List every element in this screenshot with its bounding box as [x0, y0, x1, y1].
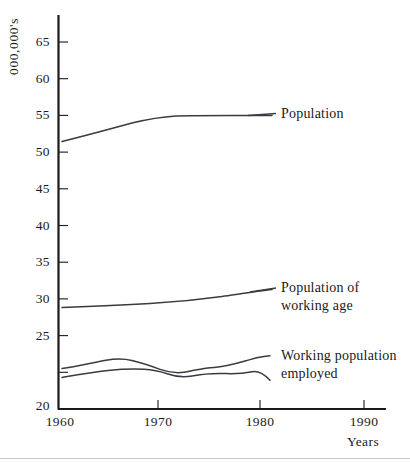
line-chart: 65 60 55 50 45 40 35 30 25 20 1960 1970 …	[0, 0, 410, 463]
series-annotation-working-population-line-1: Working population	[281, 347, 397, 365]
x-tick-label-1990: 1990	[350, 414, 379, 430]
y-tick-label-55: 55	[14, 107, 50, 123]
series-line-population-working-age	[62, 290, 272, 308]
x-axis-ticks	[158, 400, 364, 409]
chart-canvas	[0, 0, 410, 463]
series-annotation-population: Population	[281, 105, 344, 123]
series-annotation-working-population-employed: Working population employed	[281, 347, 397, 383]
footer-divider	[0, 458, 410, 459]
y-tick-label-25: 25	[14, 328, 50, 344]
y-tick-label-35: 35	[14, 254, 50, 270]
y-tick-label-50: 50	[14, 144, 50, 160]
y-axis-title: 000,000's	[6, 18, 22, 75]
y-tick-label-30: 30	[14, 291, 50, 307]
x-tick-label-1970: 1970	[144, 414, 173, 430]
series-line-working-population	[62, 356, 270, 373]
x-tick-label-1960: 1960	[46, 414, 75, 430]
y-tick-label-40: 40	[14, 218, 50, 234]
series-annotation-working-age-line-1: Population of	[281, 279, 359, 297]
x-tick-label-1980: 1980	[246, 414, 275, 430]
series-annotation-population-working-age: Population of working age	[281, 279, 359, 315]
series-line-population	[62, 115, 272, 141]
y-tick-label-45: 45	[14, 181, 50, 197]
series-annotation-population-line-1: Population	[281, 105, 344, 123]
y-axis-ticks	[59, 42, 68, 372]
series-annotation-working-age-line-2: working age	[281, 297, 359, 315]
series-annotation-working-population-line-2: employed	[281, 365, 397, 383]
y-tick-label-20: 20	[14, 398, 50, 414]
x-axis-title: Years	[347, 434, 379, 450]
